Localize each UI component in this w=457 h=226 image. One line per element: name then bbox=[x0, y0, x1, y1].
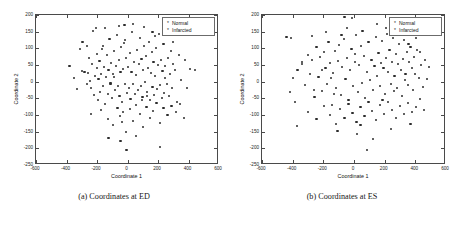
legend-item-normal[interactable]: *Normal bbox=[392, 20, 438, 27]
data-point bbox=[330, 77, 332, 79]
data-point bbox=[397, 63, 399, 65]
data-point bbox=[135, 135, 137, 137]
y-tick bbox=[214, 115, 217, 116]
x-tick bbox=[67, 160, 68, 163]
data-point bbox=[86, 45, 88, 47]
data-point bbox=[194, 69, 196, 71]
data-point bbox=[158, 33, 160, 35]
data-point bbox=[110, 62, 112, 64]
data-point bbox=[403, 39, 405, 41]
data-point bbox=[390, 83, 392, 85]
data-point bbox=[349, 69, 351, 71]
data-point bbox=[90, 113, 92, 115]
data-point bbox=[107, 118, 109, 120]
data-point bbox=[392, 37, 394, 39]
scatter-plot-ed[interactable] bbox=[35, 14, 218, 164]
y-axis-title-b: Coordinate 2 bbox=[239, 64, 245, 114]
data-point bbox=[412, 89, 414, 91]
data-point bbox=[162, 43, 164, 45]
data-point bbox=[132, 23, 134, 25]
data-point bbox=[107, 93, 109, 95]
y-tick bbox=[214, 48, 217, 49]
data-point bbox=[87, 72, 89, 74]
data-point bbox=[156, 88, 158, 90]
x-tick bbox=[293, 15, 294, 18]
y-tick bbox=[441, 132, 444, 133]
y-tick-label: 200 bbox=[228, 12, 259, 17]
x-tick bbox=[354, 160, 355, 163]
data-point bbox=[323, 51, 325, 53]
data-point bbox=[402, 58, 404, 60]
x-tick-label: -600 bbox=[30, 166, 39, 171]
data-point bbox=[407, 102, 409, 104]
data-point bbox=[356, 133, 358, 135]
data-point bbox=[151, 51, 153, 53]
data-point bbox=[346, 57, 348, 59]
data-point bbox=[390, 128, 392, 130]
data-point bbox=[346, 27, 348, 29]
data-point bbox=[171, 87, 173, 89]
x-tick-label: 400 bbox=[410, 166, 418, 171]
data-point bbox=[413, 56, 415, 58]
data-point bbox=[96, 53, 98, 55]
data-point bbox=[159, 122, 161, 124]
data-point bbox=[381, 99, 383, 101]
data-point bbox=[184, 59, 186, 61]
scatter-plot-es[interactable] bbox=[261, 14, 445, 164]
data-point bbox=[79, 48, 81, 50]
data-point bbox=[327, 41, 329, 43]
x-tick bbox=[97, 15, 98, 18]
x-tick bbox=[158, 160, 159, 163]
data-point bbox=[292, 77, 294, 79]
data-point bbox=[307, 111, 309, 113]
data-point bbox=[102, 85, 104, 87]
data-point bbox=[132, 83, 134, 85]
x-tick bbox=[36, 160, 37, 163]
data-point bbox=[160, 59, 162, 61]
data-point bbox=[409, 123, 411, 125]
data-point bbox=[366, 71, 368, 73]
data-point bbox=[371, 110, 373, 112]
x-tick bbox=[128, 15, 129, 18]
y-tick bbox=[262, 132, 265, 133]
data-point bbox=[355, 34, 357, 36]
data-point bbox=[331, 104, 333, 106]
data-point bbox=[152, 61, 154, 63]
data-point bbox=[307, 54, 309, 56]
data-point bbox=[355, 121, 357, 123]
data-point bbox=[97, 78, 99, 80]
y-axis-title-a: Coordinate 2 bbox=[13, 64, 19, 114]
x-tick bbox=[385, 160, 386, 163]
data-point bbox=[426, 78, 428, 80]
data-point bbox=[379, 104, 381, 106]
legend-item-infarcted[interactable]: *Infarcted bbox=[165, 27, 211, 34]
legend-a[interactable]: *Normal*Infarcted bbox=[162, 17, 215, 36]
y-tick bbox=[441, 48, 444, 49]
data-point bbox=[97, 99, 99, 101]
data-point bbox=[411, 111, 413, 113]
data-point bbox=[122, 111, 124, 113]
data-point bbox=[174, 69, 176, 71]
data-point bbox=[118, 59, 120, 61]
legend-b[interactable]: *Normal*Infarcted bbox=[389, 17, 442, 36]
data-point bbox=[383, 113, 385, 115]
data-point bbox=[119, 140, 121, 142]
data-point bbox=[107, 137, 109, 139]
y-tick bbox=[36, 132, 39, 133]
data-point bbox=[360, 45, 362, 47]
data-point bbox=[121, 101, 123, 103]
y-tick bbox=[214, 65, 217, 66]
data-point bbox=[400, 69, 402, 71]
legend-item-normal[interactable]: *Normal bbox=[165, 20, 211, 27]
data-point bbox=[301, 63, 303, 65]
data-point bbox=[161, 97, 163, 99]
data-point bbox=[375, 119, 377, 121]
y-tick bbox=[441, 65, 444, 66]
data-point bbox=[92, 30, 94, 32]
data-point bbox=[337, 60, 339, 62]
data-point bbox=[152, 110, 154, 112]
data-point bbox=[377, 52, 379, 54]
data-point bbox=[129, 52, 131, 54]
data-point bbox=[294, 101, 296, 103]
legend-item-infarcted[interactable]: *Infarcted bbox=[392, 27, 438, 34]
